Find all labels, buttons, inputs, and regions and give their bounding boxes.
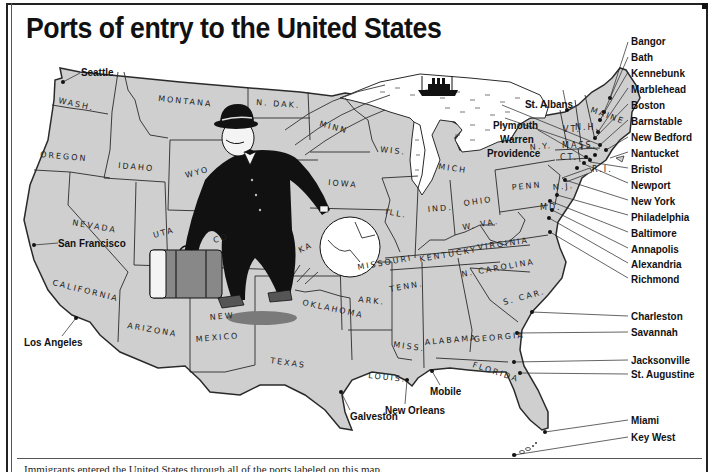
port-label-marblehead: Marblehead: [631, 83, 686, 95]
port-label-kennebunk: Kennebunk: [631, 67, 685, 79]
port-label-st-augustine: St. Augustine: [631, 368, 694, 380]
port-label-mobile: Mobile: [430, 385, 461, 397]
port-label-miami: Miami: [631, 414, 659, 426]
port-label-nantucket: Nantucket: [631, 147, 679, 159]
nantucket-island: [616, 156, 624, 162]
suitcase-illustration: [150, 246, 222, 298]
port-label-savannah: Savannah: [631, 326, 678, 338]
port-label-alexandria: Alexandria: [631, 258, 682, 270]
port-label-newport: Newport: [631, 179, 671, 191]
port-label-charleston: Charleston: [631, 310, 683, 322]
port-label-new-orleans: New Orleans: [385, 404, 445, 416]
caption-divider: [17, 458, 702, 459]
svg-text:MASS.: MASS.: [562, 141, 597, 150]
port-label-boston: Boston: [631, 99, 665, 111]
port-label-warren: Warren: [500, 133, 534, 145]
port-label-providence: Providence: [487, 147, 540, 159]
figure-shadow: [227, 311, 297, 325]
port-label-st-albans: St. Albans: [525, 98, 573, 110]
port-label-bath: Bath: [631, 51, 653, 63]
port-label-annapolis: Annapolis: [631, 243, 679, 255]
port-label-richmond: Richmond: [631, 273, 679, 285]
port-label-barnstable: Barnstable: [631, 115, 682, 127]
map-caption: Immigrants entered the United States thr…: [24, 463, 383, 472]
port-label-new-york: New York: [631, 195, 675, 207]
port-label-key-west: Key West: [631, 431, 675, 443]
svg-text:CT.: CT.: [560, 153, 578, 162]
port-label-baltimore: Baltimore: [631, 227, 677, 239]
port-label-seattle: Seattle: [81, 66, 113, 78]
svg-text:R.I.: R.I.: [592, 165, 613, 174]
port-label-san-francisco: San Francisco: [58, 237, 126, 249]
svg-text:N.H.: N.H.: [575, 123, 600, 132]
port-label-philadelphia: Philadelphia: [631, 211, 689, 223]
port-label-jacksonville: Jacksonville: [631, 354, 690, 366]
port-label-bristol: Bristol: [631, 163, 662, 175]
svg-text:N.J.: N.J.: [552, 181, 574, 192]
port-label-los-angeles: Los Angeles: [24, 336, 83, 348]
port-label-new-bedford: New Bedford: [631, 131, 692, 143]
port-label-bangor: Bangor: [631, 35, 666, 47]
port-label-plymouth: Plymouth: [493, 119, 538, 131]
